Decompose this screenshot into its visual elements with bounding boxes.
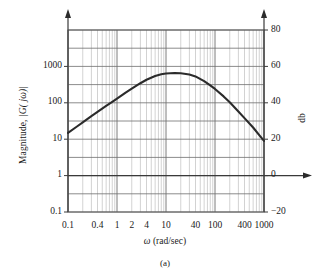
y-axis-right-ticklabel: 80 bbox=[271, 24, 305, 34]
y-axis-left-ticklabel: 100 bbox=[28, 96, 62, 106]
y-axis-right-ticklabel: −20 bbox=[271, 206, 305, 216]
y-axis-left-ticklabel: 0.1 bbox=[28, 206, 62, 216]
y-axis-left-title-prefix: Magnitude, bbox=[18, 117, 28, 164]
x-axis-title-unit: (rad/sec) bbox=[153, 236, 186, 246]
bode-magnitude-figure: Magnitude, |G( jω)| db ω (rad/sec) (a) 0… bbox=[0, 0, 324, 275]
figure-caption: (a) bbox=[62, 258, 268, 268]
x-axis-ticklabel: 1000 bbox=[247, 220, 281, 230]
y-axis-left-title: Magnitude, |G( jω)| bbox=[18, 55, 28, 195]
y-axis-left-ticklabel: 1 bbox=[28, 169, 62, 179]
y-axis-left-ticklabel: 1000 bbox=[28, 60, 62, 70]
y-axis-right-ticklabel: 40 bbox=[271, 96, 305, 106]
y-axis-right-ticklabel: 20 bbox=[271, 133, 305, 143]
y-axis-right-ticklabel: 0 bbox=[271, 169, 305, 179]
x-axis-title: ω (rad/sec) bbox=[62, 236, 268, 246]
y-axis-left-title-symbol: |G( jω)| bbox=[18, 86, 28, 117]
x-axis-title-symbol: ω bbox=[144, 236, 151, 246]
y-axis-right-ticklabel: 60 bbox=[271, 60, 305, 70]
y-axis-left-ticklabel: 10 bbox=[28, 133, 62, 143]
